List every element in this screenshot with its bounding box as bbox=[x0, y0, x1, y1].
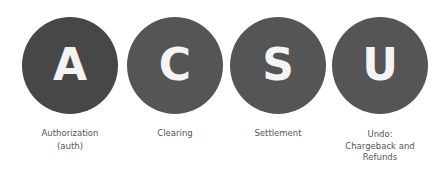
step-authorization: A Authorization (auth) bbox=[22, 17, 118, 114]
step-label-line: Refunds bbox=[302, 152, 447, 163]
step-label-line: Undo: bbox=[302, 129, 447, 140]
step-circle-c: C bbox=[127, 17, 223, 114]
step-circle-s: S bbox=[230, 17, 326, 114]
step-letter: C bbox=[159, 43, 191, 87]
step-circle-a: A bbox=[22, 17, 118, 114]
step-letter: S bbox=[262, 43, 294, 87]
step-letter: U bbox=[362, 43, 398, 87]
step-settlement: S Settlement bbox=[230, 17, 326, 114]
step-clearing: C Clearing bbox=[127, 17, 223, 114]
step-letter: A bbox=[53, 43, 87, 87]
step-label-line: Chargeback and bbox=[302, 141, 447, 152]
step-circle-u: U bbox=[332, 17, 428, 114]
step-label-line: (auth) bbox=[0, 141, 148, 152]
step-label: Undo: Chargeback and Refunds bbox=[302, 129, 447, 163]
step-undo: U Undo: Chargeback and Refunds bbox=[332, 17, 428, 114]
